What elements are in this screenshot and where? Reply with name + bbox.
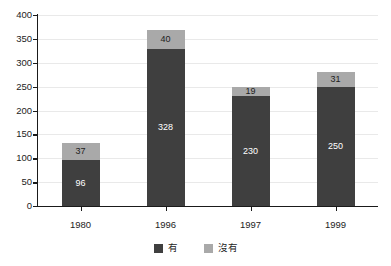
y-axis-tick <box>33 206 37 207</box>
bar-value-label: 40 <box>160 35 170 44</box>
bar-value-label: 328 <box>158 123 173 132</box>
y-axis-tick-label: 400 <box>2 10 32 20</box>
y-axis-tick-label: 350 <box>2 34 32 44</box>
y-axis-tick-label: 100 <box>2 153 32 163</box>
bar-value-label: 250 <box>328 142 343 151</box>
legend-item[interactable]: 有 <box>154 243 178 253</box>
bar-segment[interactable]: 250 <box>317 87 355 206</box>
chart-legend: 有沒有 <box>0 243 391 253</box>
y-axis-tick-label: 250 <box>2 82 32 92</box>
bar-group[interactable]: 32840 <box>147 15 185 206</box>
bar-segment[interactable]: 40 <box>147 30 185 49</box>
y-axis-tick <box>33 134 37 135</box>
y-axis-tick <box>33 87 37 88</box>
x-axis-tick-label: 1980 <box>46 219 116 230</box>
y-axis-labels: 050100150200250300350400 <box>0 0 32 266</box>
y-axis-line <box>37 14 38 207</box>
x-axis-tick <box>81 207 82 211</box>
x-axis-tick-label: 1996 <box>131 219 201 230</box>
bar-value-label: 31 <box>330 75 340 84</box>
legend-item[interactable]: 沒有 <box>204 243 238 253</box>
legend-label: 有 <box>168 243 178 253</box>
bar-group[interactable]: 9637 <box>62 15 100 206</box>
x-axis-tick <box>251 207 252 211</box>
bar-value-label: 37 <box>75 147 85 156</box>
y-axis-tick-label: 0 <box>2 201 32 211</box>
legend-swatch-icon <box>154 244 163 253</box>
bar-value-label: 96 <box>75 179 85 188</box>
x-axis-tick <box>336 207 337 211</box>
y-axis-tick <box>33 111 37 112</box>
bar-value-label: 19 <box>245 87 255 96</box>
legend-label: 沒有 <box>218 243 238 253</box>
y-axis-tick-label: 150 <box>2 129 32 139</box>
y-axis-tick-label: 200 <box>2 106 32 116</box>
x-axis-line <box>37 206 378 207</box>
bar-group[interactable]: 25031 <box>317 15 355 206</box>
y-axis-tick <box>33 15 37 16</box>
bar-value-label: 230 <box>243 147 258 156</box>
bar-group[interactable]: 23019 <box>232 15 270 206</box>
bar-segment[interactable]: 31 <box>317 72 355 87</box>
x-axis-tick <box>166 207 167 211</box>
bar-segment[interactable]: 230 <box>232 96 270 206</box>
y-axis-tick-label: 300 <box>2 58 32 68</box>
bar-segment[interactable]: 19 <box>232 87 270 96</box>
bar-segment[interactable]: 37 <box>62 143 100 161</box>
y-axis-tick <box>33 158 37 159</box>
legend-swatch-icon <box>204 244 213 253</box>
x-axis-tick-label: 1999 <box>301 219 371 230</box>
x-axis-tick-label: 1997 <box>216 219 286 230</box>
y-axis-tick <box>33 182 37 183</box>
stacked-bar-chart: 050100150200250300350400 963732840230192… <box>0 0 391 266</box>
bar-segment[interactable]: 328 <box>147 49 185 206</box>
y-axis-tick <box>33 39 37 40</box>
y-axis-tick <box>33 63 37 64</box>
bar-segment[interactable]: 96 <box>62 160 100 206</box>
y-axis-tick-label: 50 <box>2 177 32 187</box>
